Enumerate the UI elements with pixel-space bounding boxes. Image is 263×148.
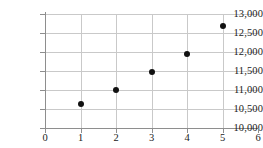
data-point [78, 101, 84, 107]
y-axis-tick-label: 10,500 [223, 104, 263, 115]
x-axis-tick-label: 5 [220, 133, 225, 144]
y-axis-tick [40, 109, 45, 110]
x-axis-tick-label: 2 [113, 133, 118, 144]
y-axis-tick [40, 33, 45, 34]
data-point [149, 69, 155, 75]
x-axis-tick-label: 6 [255, 133, 260, 144]
x-axis-tick-label: 0 [42, 133, 47, 144]
y-axis-tick-label: 11,500 [223, 66, 263, 77]
data-point [220, 23, 226, 29]
y-axis-tick [40, 71, 45, 72]
y-axis-tick-label: 12,000 [223, 47, 263, 58]
scatter-chart: 10,00010,50011,00011,50012,00012,50013,0… [0, 0, 263, 148]
data-point [113, 87, 119, 93]
x-axis-tick-label: 3 [149, 133, 154, 144]
y-axis-tick-label: 12,500 [223, 28, 263, 39]
x-axis-tick-label: 1 [78, 133, 83, 144]
y-axis-line [45, 12, 46, 129]
y-axis-tick [40, 52, 45, 53]
x-axis-tick-label: 4 [184, 133, 189, 144]
y-axis-tick [40, 14, 45, 15]
gridline-vertical [81, 14, 82, 128]
y-axis-tick-label: 11,000 [223, 85, 263, 96]
gridline-vertical [116, 14, 117, 128]
gridline-vertical [187, 14, 188, 128]
data-point [184, 51, 190, 57]
y-axis-tick [40, 90, 45, 91]
y-axis-tick-label: 13,000 [223, 9, 263, 20]
